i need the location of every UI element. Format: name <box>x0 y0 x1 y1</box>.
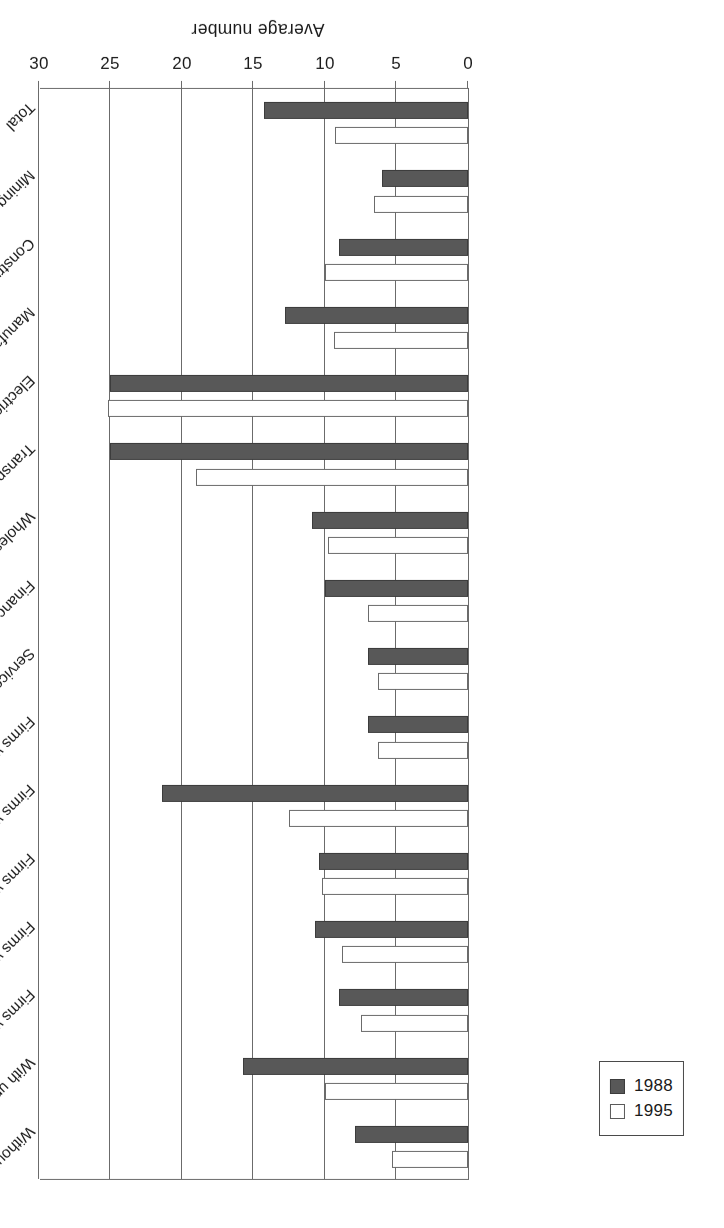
bar-1988 <box>382 170 468 187</box>
bar-1988 <box>312 512 468 529</box>
bar-1995 <box>378 673 468 690</box>
bar-row <box>39 701 468 769</box>
tick-mark-10 <box>324 81 325 88</box>
bar-row <box>39 155 468 223</box>
bar-1988 <box>285 307 468 324</box>
bar-1995 <box>108 400 468 417</box>
bar-row <box>39 497 468 565</box>
tick-mark-30 <box>38 81 39 88</box>
chart-page: 051015202530 TotalMiningConstructionManu… <box>0 0 724 1228</box>
tick-label-20: 20 <box>162 54 202 74</box>
tick-label-10: 10 <box>305 54 345 74</box>
category-label: Construction <box>0 235 38 309</box>
bar-1995 <box>361 1015 468 1032</box>
tick-label-0: 0 <box>448 54 488 74</box>
bar-1988 <box>339 989 468 1006</box>
bar-1995 <box>325 264 468 281</box>
bar-row <box>39 1043 468 1111</box>
bar-row <box>39 974 468 1042</box>
bar-1988 <box>319 853 468 870</box>
bar-1988 <box>368 648 468 665</box>
category-label: Manufacturing <box>0 303 38 385</box>
bar-1995 <box>196 469 468 486</box>
legend-label-1995: 1995 <box>634 1101 673 1121</box>
bar-1988 <box>162 785 468 802</box>
tick-label-5: 5 <box>377 54 417 74</box>
category-label: With union <box>0 1054 38 1119</box>
tick-mark-20 <box>181 81 182 88</box>
bar-1995 <box>378 742 468 759</box>
category-label: Without union <box>0 1122 38 1202</box>
bar-row <box>39 360 468 428</box>
legend-item-1988: 1988 <box>610 1076 673 1096</box>
category-label: Services <box>0 645 38 700</box>
rotated-figure: 051015202530 TotalMiningConstructionManu… <box>0 0 724 1228</box>
legend-item-1995: 1995 <box>610 1101 673 1121</box>
bar-row <box>39 633 468 701</box>
bar-row <box>39 292 468 360</box>
bar-1995 <box>328 537 468 554</box>
tick-mark-15 <box>253 81 254 88</box>
tick-label-30: 30 <box>19 54 59 74</box>
bar-1988 <box>368 716 468 733</box>
category-label: Mining <box>0 167 38 212</box>
bar-row <box>39 838 468 906</box>
bar-row <box>39 565 468 633</box>
bar-1995 <box>325 1083 468 1100</box>
legend-label-1988: 1988 <box>634 1076 673 1096</box>
bar-1995 <box>289 810 468 827</box>
bar-row <box>39 224 468 292</box>
bar-1995 <box>342 946 468 963</box>
bar-1988 <box>339 239 468 256</box>
category-label: Total <box>2 99 38 135</box>
bar-1995 <box>335 127 468 144</box>
bar-1988 <box>325 580 468 597</box>
legend-swatch-1988 <box>610 1079 625 1094</box>
bar-1995 <box>368 605 468 622</box>
tick-label-15: 15 <box>234 54 274 74</box>
tick-mark-0 <box>467 81 468 88</box>
bar-row <box>39 906 468 974</box>
value-axis-title: Average number <box>191 19 324 40</box>
value-axis-line <box>40 88 468 89</box>
bar-1995 <box>374 196 468 213</box>
bar-1988 <box>111 375 469 392</box>
legend-swatch-1995 <box>610 1104 625 1119</box>
bar-1988 <box>355 1126 468 1143</box>
plot-region: 051015202530 <box>40 88 469 1180</box>
bar-1988 <box>264 102 468 119</box>
bar-row <box>39 1111 468 1179</box>
chart-area: 051015202530 TotalMiningConstructionManu… <box>40 88 469 1180</box>
tick-mark-25 <box>110 81 111 88</box>
chart-legend: 1988 1995 <box>599 1061 684 1136</box>
bar-1988 <box>244 1058 469 1075</box>
bar-1988 <box>111 443 469 460</box>
category-label: Wholesale and retail trade <box>0 508 38 648</box>
bar-row <box>39 87 468 155</box>
tick-mark-5 <box>396 81 397 88</box>
bar-1995 <box>322 878 468 895</box>
bar-1995 <box>334 332 468 349</box>
bar-row <box>39 770 468 838</box>
bar-row <box>39 428 468 496</box>
tick-label-25: 25 <box>91 54 131 74</box>
bar-1988 <box>315 921 468 938</box>
bar-1995 <box>392 1151 468 1168</box>
category-label: Electricity and gas services <box>0 372 38 517</box>
